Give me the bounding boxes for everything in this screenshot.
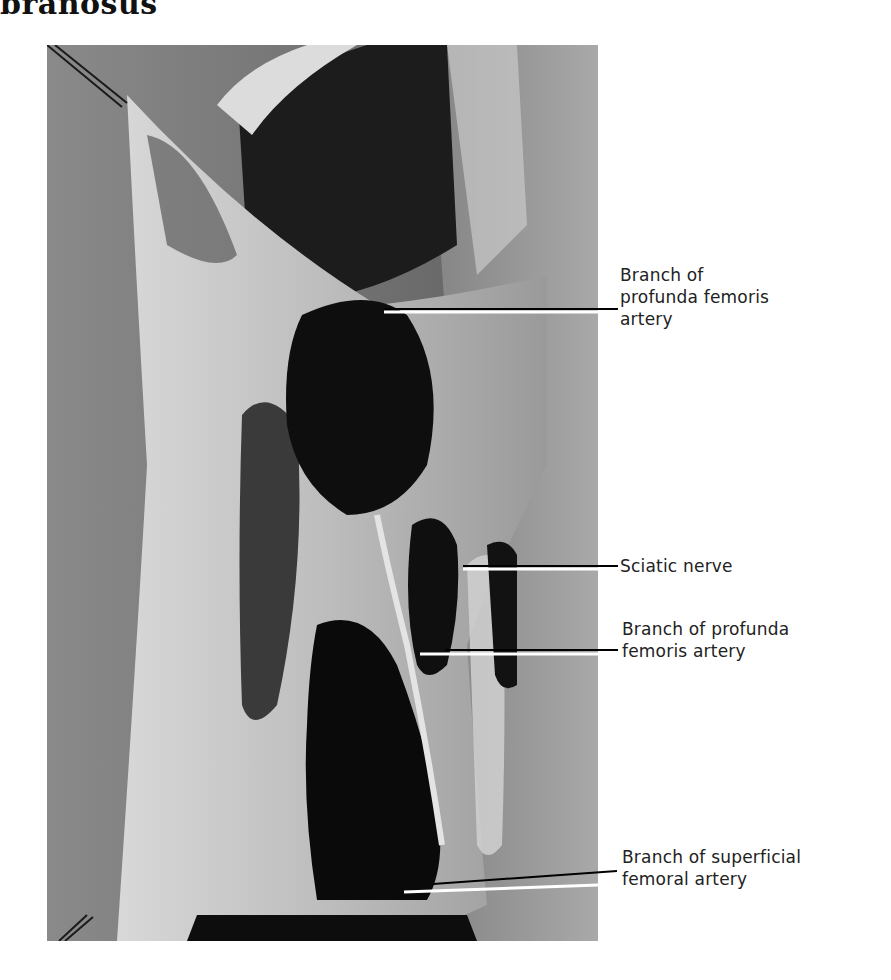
dissection-photograph: [47, 45, 598, 941]
label-line: Branch of superficial: [622, 846, 801, 868]
label-line: profunda femoris: [620, 286, 769, 308]
label-line: Branch of profunda: [622, 618, 789, 640]
label-line: artery: [620, 308, 769, 330]
label-branch-profunda-femoris-upper: Branch of profunda femoris artery: [620, 264, 769, 330]
label-line: Sciatic nerve: [620, 555, 733, 577]
label-sciatic-nerve: Sciatic nerve: [620, 555, 733, 577]
label-branch-superficial-femoral: Branch of superficial femoral artery: [622, 846, 801, 890]
label-branch-profunda-femoris-lower: Branch of profunda femoris artery: [622, 618, 789, 662]
section-heading: branosus: [0, 0, 158, 21]
label-line: Branch of: [620, 264, 769, 286]
label-line: femoral artery: [622, 868, 801, 890]
label-line: femoris artery: [622, 640, 789, 662]
